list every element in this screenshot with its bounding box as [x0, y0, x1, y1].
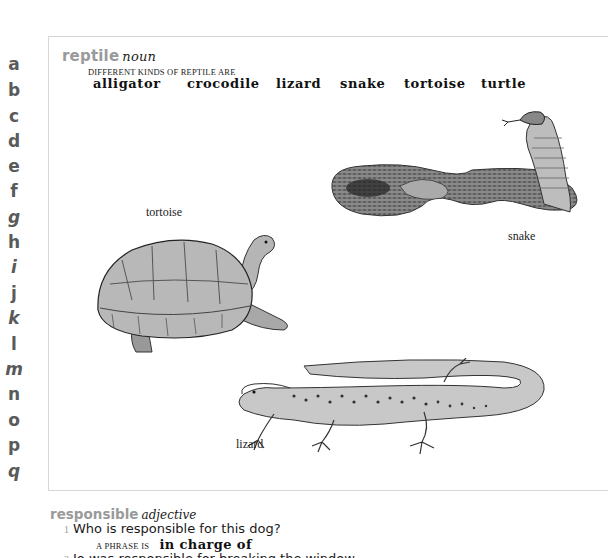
alphabet-letter-o[interactable]: o: [4, 410, 24, 430]
alphabet-letter-c[interactable]: c: [4, 106, 24, 126]
alphabet-letter-j[interactable]: j: [4, 283, 24, 303]
alphabet-letter-b[interactable]: b: [4, 80, 24, 100]
lizard-illustration: [234, 358, 552, 463]
tortoise-illustration: [92, 230, 297, 360]
part-of-speech: adjective: [142, 508, 197, 522]
caption-lizard: lizard: [236, 437, 263, 452]
kind-tortoise: tortoise: [404, 76, 481, 91]
alphabet-letter-a[interactable]: a: [4, 54, 24, 74]
phrase-label: A PHRASE IS: [96, 541, 149, 551]
sense-number: 2: [64, 554, 69, 558]
alphabet-letter-m[interactable]: m: [4, 359, 24, 379]
headword-text: reptile: [62, 47, 119, 65]
sense-example: Jo was responsible for breaking the wind…: [73, 551, 358, 558]
alphabet-letter-i[interactable]: i: [4, 257, 24, 277]
sense-1: 1Who is responsible for this dog?: [64, 521, 281, 536]
kind-snake: snake: [340, 76, 404, 91]
alphabet-letter-n[interactable]: n: [4, 384, 24, 404]
sense-example: Who is responsible for this dog?: [73, 521, 281, 536]
caption-snake: snake: [508, 229, 535, 244]
alphabet-letter-p[interactable]: p: [4, 435, 24, 455]
sense-2: 2Jo was responsible for breaking the win…: [64, 551, 358, 558]
alphabet-letter-h[interactable]: h: [4, 232, 24, 252]
phrase: in charge of: [159, 537, 252, 552]
kind-lizard: lizard: [276, 76, 340, 91]
kind-alligator: alligator: [93, 76, 187, 91]
alphabet-letter-d[interactable]: d: [4, 131, 24, 151]
alphabet-letter-e[interactable]: e: [4, 156, 24, 176]
alphabet-letter-q[interactable]: q: [4, 461, 24, 481]
part-of-speech: noun: [122, 49, 156, 64]
kind-crocodile: crocodile: [187, 76, 276, 91]
kind-turtle: turtle: [481, 76, 526, 91]
caption-tortoise: tortoise: [146, 205, 182, 220]
alphabet-letter-l[interactable]: l: [4, 334, 24, 354]
alphabet-letter-k[interactable]: k: [4, 308, 24, 328]
alphabet-letter-g[interactable]: g: [4, 207, 24, 227]
entry-headword-reptile: reptilenoun: [62, 47, 156, 65]
phrase-row: A PHRASE IS in charge of: [96, 537, 252, 552]
entry-headword-responsible: responsibleadjective: [50, 506, 196, 522]
kinds-list: alligator crocodile lizard snake tortois…: [93, 76, 526, 91]
cobra-snake-illustration: [322, 108, 602, 220]
sense-number: 1: [64, 524, 69, 535]
headword-text: responsible: [50, 506, 139, 522]
alphabet-letter-f[interactable]: f: [4, 181, 24, 201]
